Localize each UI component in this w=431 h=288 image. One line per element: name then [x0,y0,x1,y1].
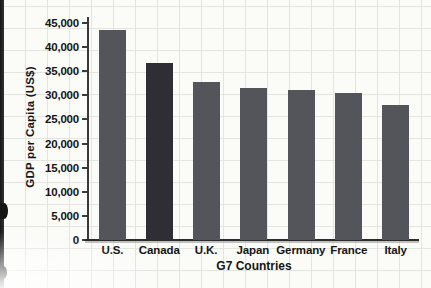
plot-area [89,23,419,240]
y-tick-5000: 5,000 [51,209,88,223]
bar-canada [146,63,173,240]
bar-japan [240,88,267,240]
bar-column-germany [278,23,325,240]
scanned-bar-chart-figure: GDP per Capita (US$) 05,00010,00015,0002… [0,0,431,288]
bar-column-france [325,23,372,240]
x-label-japan: Japan [229,244,276,256]
y-tick-label: 40,000 [45,41,79,53]
bar-column-canada [136,23,183,240]
bar-column-italy [372,23,419,240]
y-tick-label: 15,000 [45,162,79,174]
y-axis-tick-layer: 05,00010,00015,00020,00025,00030,00035,0… [18,23,88,240]
y-tick-label: 30,000 [45,89,79,101]
y-tick-35000: 35,000 [45,64,88,78]
x-label-germany: Germany [276,244,325,256]
bar-france [335,93,362,240]
bar-uk [193,82,220,240]
y-tick-label: 5,000 [51,210,79,222]
y-tick-25000: 25,000 [45,112,88,126]
y-tick-45000: 45,000 [45,16,88,30]
y-tick-label: 45,000 [45,17,79,29]
y-tick-label: 20,000 [45,138,79,150]
page-curl-highlight [0,232,160,288]
bar-column-uk [183,23,230,240]
y-tick-40000: 40,000 [45,40,88,54]
y-tick-30000: 30,000 [45,88,88,102]
bar-column-us [89,23,136,240]
bar-italy [382,105,409,240]
y-tick-10000: 10,000 [45,185,88,199]
bar-us [99,30,126,240]
x-label-italy: Italy [372,244,419,256]
x-label-uk: U.K. [183,244,230,256]
y-tick-label: 25,000 [45,113,79,125]
y-tick-20000: 20,000 [45,137,88,151]
scan-edge-artifact [0,203,8,219]
bar-column-japan [230,23,277,240]
x-label-france: France [325,244,372,256]
y-tick-label: 10,000 [45,186,79,198]
y-tick-15000: 15,000 [45,161,88,175]
y-tick-label: 35,000 [45,65,79,77]
bar-germany [288,90,315,240]
